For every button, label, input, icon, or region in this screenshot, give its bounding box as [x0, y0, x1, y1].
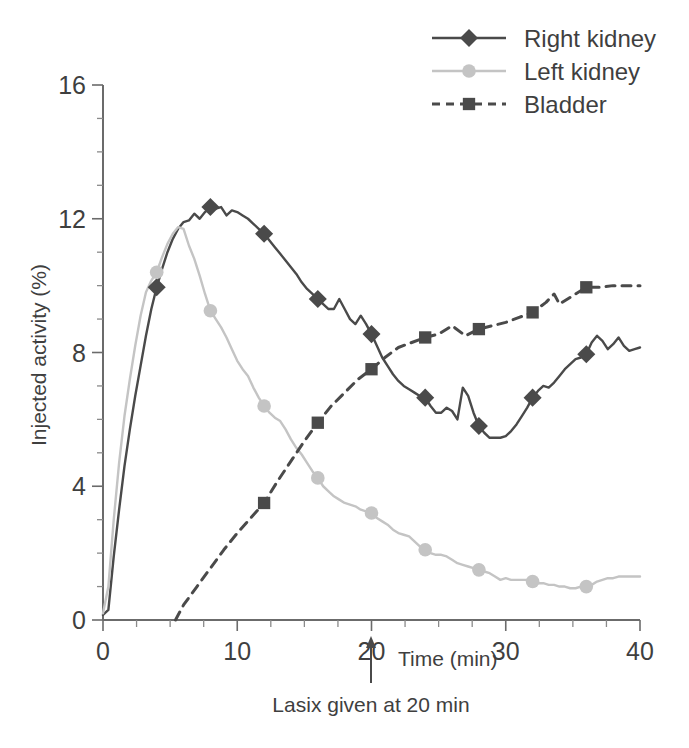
legend-label-2: Bladder [524, 91, 607, 118]
legend-marker-1 [462, 64, 476, 78]
data-marker-2 [312, 417, 324, 429]
y-tick-label: 12 [58, 205, 86, 233]
x-tick-label: 0 [96, 637, 110, 665]
renogram-chart-figure: 0481216010203040 Injected activity (%) T… [0, 0, 689, 748]
x-tick-label: 40 [626, 637, 654, 665]
data-marker-2 [473, 323, 485, 335]
lasix-annotation-label: Lasix given at 20 min [272, 693, 469, 716]
legend-label-1: Left kidney [524, 58, 640, 85]
y-tick-label: 8 [72, 339, 86, 367]
chart-canvas: 0481216010203040 Injected activity (%) T… [0, 0, 689, 748]
data-marker-2 [580, 281, 592, 293]
data-marker-1 [526, 575, 540, 589]
data-marker-2 [419, 331, 431, 343]
data-marker-1 [472, 563, 486, 577]
data-marker-2 [365, 363, 377, 375]
data-marker-1 [365, 506, 379, 520]
data-marker-1 [150, 265, 164, 279]
x-axis-title: Time (min) [398, 647, 498, 670]
data-marker-2 [526, 306, 538, 318]
y-tick-label: 0 [72, 606, 86, 634]
y-tick-label: 16 [58, 71, 86, 99]
data-marker-1 [579, 580, 593, 594]
data-marker-1 [311, 471, 325, 485]
data-marker-1 [204, 304, 218, 318]
legend-label-0: Right kidney [524, 25, 656, 52]
data-marker-1 [257, 399, 271, 413]
data-marker-2 [258, 497, 270, 509]
data-marker-1 [418, 543, 432, 557]
x-tick-label: 10 [223, 637, 251, 665]
legend-marker-2 [463, 98, 475, 110]
y-tick-label: 4 [72, 472, 86, 500]
y-axis-title: Injected activity (%) [27, 264, 50, 446]
